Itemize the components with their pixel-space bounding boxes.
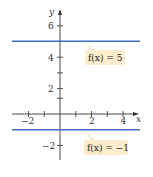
y-axis: y 6 4 2 −2: [42, 7, 63, 160]
x-tick-label-2: 2: [89, 116, 95, 126]
y-axis-arrow-icon: [58, 9, 62, 15]
x-axis-label: x: [136, 114, 141, 124]
y-tick-label-6: 6: [48, 21, 54, 31]
x-tick-label-neg2: −2: [21, 116, 34, 126]
callout-label-f-equals-5: f(x) = 5: [88, 53, 123, 63]
callout-f-equals-neg1: f(x) = −1: [84, 132, 129, 155]
y-tick-label-neg2: −2: [42, 141, 55, 151]
callout-label-f-equals-neg1: f(x) = −1: [87, 143, 129, 153]
x-axis: x −2 2 4: [12, 111, 141, 126]
x-tick-label-4: 4: [121, 116, 127, 126]
callout-f-equals-5: f(x) = 5: [85, 43, 125, 65]
constant-functions-chart: y 6 4 2 −2 x −2 2 4 f(x) = 5 f(x) = −1: [0, 0, 153, 177]
y-axis-label: y: [48, 7, 55, 17]
y-tick-label-2: 2: [48, 84, 54, 94]
y-tick-label-4: 4: [48, 53, 54, 63]
